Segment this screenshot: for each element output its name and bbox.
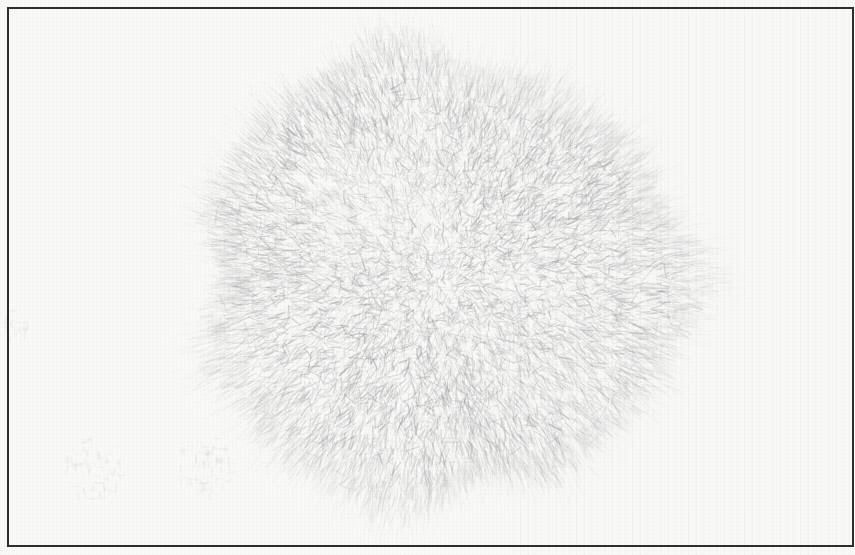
fuzzy-scribble-ball-drawing [0,0,855,555]
scanned-paper-page [0,0,855,555]
